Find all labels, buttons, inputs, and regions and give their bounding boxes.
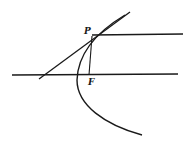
line-through-p	[92, 34, 183, 35]
axis-line	[12, 74, 178, 75]
tangent-line	[39, 12, 130, 79]
diagram-canvas: P F	[0, 0, 190, 145]
label-p: P	[83, 26, 91, 36]
label-f: F	[87, 77, 95, 87]
